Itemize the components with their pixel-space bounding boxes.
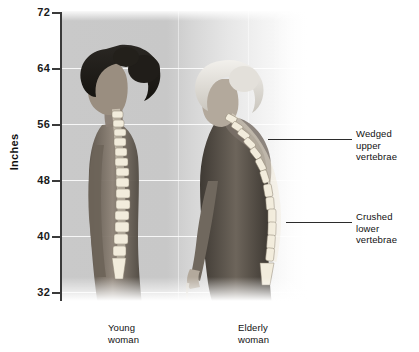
y-tick-label-32: 32 [24,286,50,298]
y-tick-72 [52,12,61,14]
y-tick-label-40: 40 [24,230,50,242]
callout-line-crushed-lower [286,222,352,223]
caption-elderly-woman: Elderly woman [238,322,269,345]
callout-crushed-lower: Crushed lower vertebrae [356,211,397,246]
photo-fade-bottom [62,277,312,303]
y-tick-label-48: 48 [24,174,50,186]
callout-wedged-upper: Wedged upper vertebrae [356,128,397,163]
y-tick-label-56: 56 [24,118,50,130]
y-axis-line [60,12,62,301]
y-tick-32 [52,292,61,294]
y-tick-64 [52,68,61,70]
y-axis-title: Inches [8,122,20,182]
young-woman-figure [68,39,188,303]
photo-fade-right [272,11,312,303]
caption-young-woman: Young woman [108,322,139,345]
osteoporosis-height-figure: 72 64 56 48 40 32 Inches Wedged upper ve… [0,0,419,352]
y-tick-48 [52,180,61,182]
y-tick-label-72: 72 [24,6,50,18]
y-tick-label-64: 64 [24,62,50,74]
y-tick-40 [52,236,61,238]
photo-panel [62,11,312,303]
y-tick-56 [52,124,61,126]
callout-line-wedged-upper [268,139,352,140]
